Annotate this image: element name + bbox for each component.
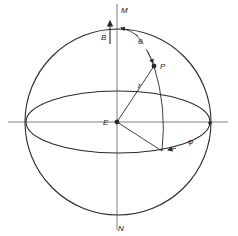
projection-line bbox=[117, 122, 162, 151]
radius-line bbox=[117, 66, 154, 122]
label-r: r bbox=[138, 81, 141, 90]
origin-point-e bbox=[115, 120, 120, 125]
equator-axis-point bbox=[208, 121, 212, 125]
point-p bbox=[152, 64, 157, 69]
label-phi: φ bbox=[188, 137, 193, 146]
label-n: N bbox=[118, 224, 124, 233]
meridian-arc bbox=[154, 66, 163, 151]
label-p: P bbox=[160, 62, 166, 71]
label-m: M bbox=[121, 6, 128, 15]
theta-arc-arrow-p bbox=[146, 49, 153, 63]
label-b: B bbox=[101, 33, 107, 42]
label-e: E bbox=[103, 118, 109, 127]
label-theta: θ bbox=[138, 37, 143, 46]
spherical-coordinates-diagram: M N B E P r θ φ bbox=[0, 0, 238, 236]
